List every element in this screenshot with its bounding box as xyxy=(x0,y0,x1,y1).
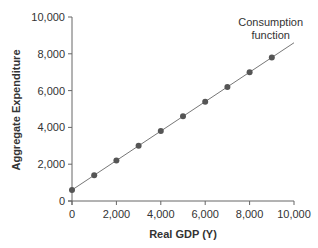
x-axis: 02,0004,0006,0008,00010,000 xyxy=(68,201,311,220)
data-point xyxy=(91,172,97,178)
data-point xyxy=(69,187,75,193)
y-tick-label: 4,000 xyxy=(37,121,65,133)
x-tick-label: 4,000 xyxy=(147,208,175,220)
plot-area xyxy=(69,43,294,193)
data-point xyxy=(180,113,186,119)
data-point xyxy=(269,54,275,60)
data-point xyxy=(136,143,142,149)
consumption-function-chart: 02,0004,0006,0008,00010,000 02,0004,0006… xyxy=(0,0,318,248)
data-point xyxy=(224,84,230,90)
x-tick-label: 6,000 xyxy=(191,208,219,220)
x-tick-label: 8,000 xyxy=(236,208,264,220)
x-tick-label: 2,000 xyxy=(103,208,131,220)
y-tick-label: 6,000 xyxy=(37,85,65,97)
x-axis-title: Real GDP (Y) xyxy=(149,228,217,240)
y-tick-label: 10,000 xyxy=(31,11,65,23)
x-tick-label: 0 xyxy=(69,208,75,220)
data-point xyxy=(202,99,208,105)
y-tick-label: 2,000 xyxy=(37,158,65,170)
y-tick-label: 0 xyxy=(59,195,65,207)
y-axis: 02,0004,0006,0008,00010,000 xyxy=(31,11,72,207)
data-point xyxy=(247,69,253,75)
y-axis-title: Aggregate Expenditure xyxy=(10,49,22,170)
consumption-function-label: Consumptionfunction xyxy=(238,16,303,41)
x-tick-label: 10,000 xyxy=(277,208,311,220)
data-point xyxy=(158,128,164,134)
data-point xyxy=(113,158,119,164)
y-tick-label: 8,000 xyxy=(37,48,65,60)
